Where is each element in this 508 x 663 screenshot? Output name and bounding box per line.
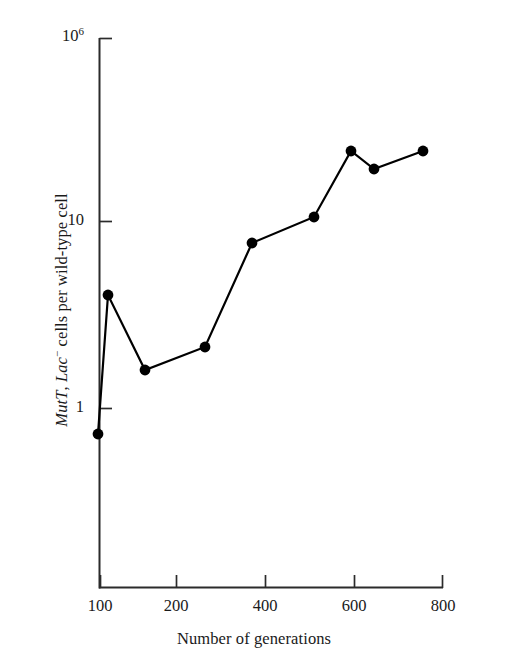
- data-point: [418, 146, 429, 157]
- data-point: [247, 238, 258, 249]
- plot-area: [0, 0, 508, 663]
- chart-figure: MutT, Lac− cells per wild-type cell Numb…: [0, 0, 508, 663]
- data-point: [346, 146, 357, 157]
- data-point: [140, 365, 151, 376]
- data-point: [309, 212, 320, 223]
- data-point: [200, 342, 211, 353]
- data-point: [103, 290, 114, 301]
- data-series-mutt-lac: [93, 146, 429, 440]
- series-markers: [93, 146, 429, 440]
- data-point: [369, 164, 380, 175]
- series-polyline: [98, 151, 423, 434]
- data-point: [93, 429, 104, 440]
